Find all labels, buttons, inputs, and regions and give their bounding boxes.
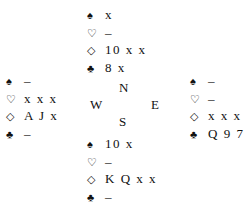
- compass-north-label: N: [119, 80, 128, 96]
- east-hearts: ♡–: [190, 90, 244, 108]
- south-diamonds: ◇K Q x x: [87, 170, 157, 188]
- spade-icon: ♠: [190, 73, 208, 91]
- diamond-icon: ◇: [87, 42, 105, 60]
- heart-icon: ♡: [87, 25, 105, 43]
- west-hearts: ♡x x x: [6, 90, 58, 108]
- north-hearts: ♡–: [87, 24, 147, 42]
- north-spades: ♠x: [87, 6, 147, 24]
- spade-icon: ♠: [87, 136, 105, 154]
- east-diamonds: ◇x x x: [190, 107, 244, 125]
- spade-icon: ♠: [87, 7, 105, 25]
- east-hand: ♠– ♡– ◇x x x ♣Q 9 7: [190, 72, 244, 142]
- club-icon: ♣: [87, 60, 105, 78]
- south-clubs: ♣–: [87, 188, 157, 206]
- compass-east-label: E: [151, 97, 159, 113]
- compass-west-label: W: [90, 97, 102, 113]
- west-spades: ♠–: [6, 72, 58, 90]
- compass-south-label: S: [119, 114, 126, 130]
- south-spades: ♠10 x: [87, 135, 157, 153]
- west-diamonds: ◇A J x: [6, 107, 58, 125]
- south-hand: ♠10 x ♡– ◇K Q x x ♣–: [87, 135, 157, 205]
- north-clubs: ♣8 x: [87, 59, 147, 77]
- club-icon: ♣: [190, 126, 208, 144]
- heart-icon: ♡: [6, 91, 24, 109]
- heart-icon: ♡: [190, 91, 208, 109]
- heart-icon: ♡: [87, 154, 105, 172]
- east-spades: ♠–: [190, 72, 244, 90]
- north-diamonds: ◇10 x x: [87, 41, 147, 59]
- west-clubs: ♣–: [6, 125, 58, 143]
- diamond-icon: ◇: [87, 171, 105, 189]
- club-icon: ♣: [6, 126, 24, 144]
- south-hearts: ♡–: [87, 153, 157, 171]
- diamond-icon: ◇: [190, 108, 208, 126]
- east-clubs: ♣Q 9 7: [190, 125, 244, 143]
- club-icon: ♣: [87, 189, 105, 206]
- west-hand: ♠– ♡x x x ◇A J x ♣–: [6, 72, 58, 142]
- spade-icon: ♠: [6, 73, 24, 91]
- north-hand: ♠x ♡– ◇10 x x ♣8 x: [87, 6, 147, 76]
- diamond-icon: ◇: [6, 108, 24, 126]
